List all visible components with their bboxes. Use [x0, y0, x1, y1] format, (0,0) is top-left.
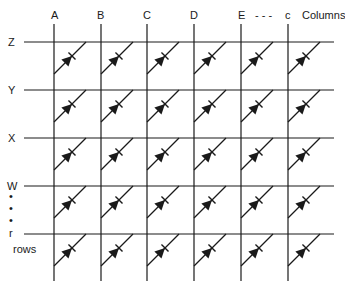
row-label-z: Z [8, 36, 15, 48]
row-dot-3: • [9, 214, 13, 226]
row-dot-2: • [9, 202, 13, 214]
columns-caption: Columns [302, 9, 345, 21]
rows-caption: rows [13, 243, 37, 255]
diode-matrix-diagram: A B C D E - - - c Columns Z Y X W • • • … [0, 0, 345, 288]
column-label-b: B [97, 9, 104, 21]
column-label-c: C [143, 9, 151, 21]
row-label-y: Y [8, 84, 16, 96]
matrix-grid [24, 24, 334, 281]
row-dot-1: • [9, 190, 13, 202]
column-label-e: E [238, 9, 245, 21]
column-label-d: D [190, 9, 198, 21]
column-label-a: A [51, 9, 59, 21]
column-ellipsis: - - - [255, 9, 272, 21]
column-label-c-lower: c [285, 9, 291, 21]
row-label-r: r [9, 227, 13, 239]
row-label-x: X [8, 132, 16, 144]
